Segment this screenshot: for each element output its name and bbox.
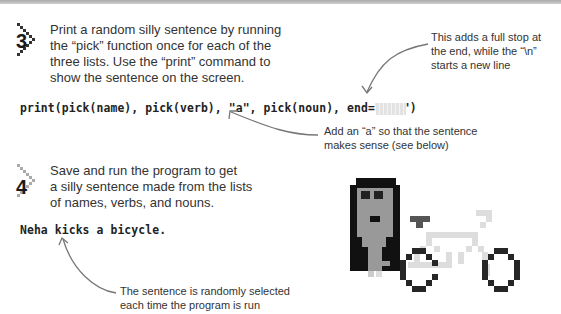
top-page-band (0, 0, 561, 4)
step-line: a silly sentence made from the lists (50, 179, 252, 195)
program-output: Neha kicks a bicycle. (20, 223, 166, 237)
step-line: three lists. Use the “print” command to (50, 54, 281, 70)
step-line: the “pick” function once for each of the (50, 38, 281, 54)
step-number: 3 (16, 31, 27, 51)
step-instructions: Save and run the program to get a silly … (50, 163, 252, 211)
annotation-line: starts a new line (431, 58, 541, 72)
person-with-bicycle-illustration (350, 178, 560, 310)
code-line-fill (376, 103, 406, 115)
annotation-line: the end, while the “\n” (431, 44, 541, 58)
annotation-line: each time the program is run (120, 298, 290, 312)
step-number: 4 (16, 177, 27, 197)
annotation-add-a: Add an “a” so that the sentence makes se… (324, 124, 478, 152)
step-line: Save and run the program to get (50, 163, 252, 179)
code-print-statement: print(pick(name), pick(verb), "a", pick(… (20, 101, 417, 115)
annotation-full-stop: This adds a full stop at the end, while … (431, 30, 541, 72)
step-line: of names, verbs, and nouns. (50, 195, 252, 211)
annotation-random: The sentence is randomly selected each t… (120, 284, 290, 312)
annotation-line: The sentence is randomly selected (120, 284, 290, 298)
curved-arrow-icon (231, 112, 318, 135)
step-line: Print a random silly sentence by running (50, 22, 281, 38)
annotation-line: This adds a full stop at (431, 30, 541, 44)
annotation-line: Add an “a” so that the sentence (324, 124, 478, 138)
person-icon (350, 178, 400, 277)
step-line: show the sentence on the screen. (50, 70, 281, 86)
curved-arrow-icon (63, 239, 116, 293)
step-instructions: Print a random silly sentence by running… (50, 22, 281, 86)
annotation-line: makes sense (see below) (324, 138, 478, 152)
curved-arrow-icon (367, 44, 428, 92)
bicycle-icon (400, 210, 520, 292)
